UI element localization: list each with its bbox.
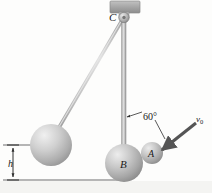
physics-figure: C B A 60° h v0 (0, 0, 212, 193)
sphere-b-raised (30, 124, 72, 166)
label-sphere-b: B (120, 158, 127, 170)
floor-shadow (0, 181, 212, 193)
label-height-h: h (8, 158, 13, 169)
label-sphere-a: A (147, 148, 155, 159)
label-pivot-c: C (109, 11, 117, 23)
velocity-subscript: 0 (200, 118, 203, 125)
figure-canvas: C B A 60° h v0 (0, 0, 212, 193)
label-angle-60: 60° (143, 111, 157, 122)
pivot-center-dot (122, 16, 125, 19)
pendulum-rod-vertical (122, 15, 126, 165)
